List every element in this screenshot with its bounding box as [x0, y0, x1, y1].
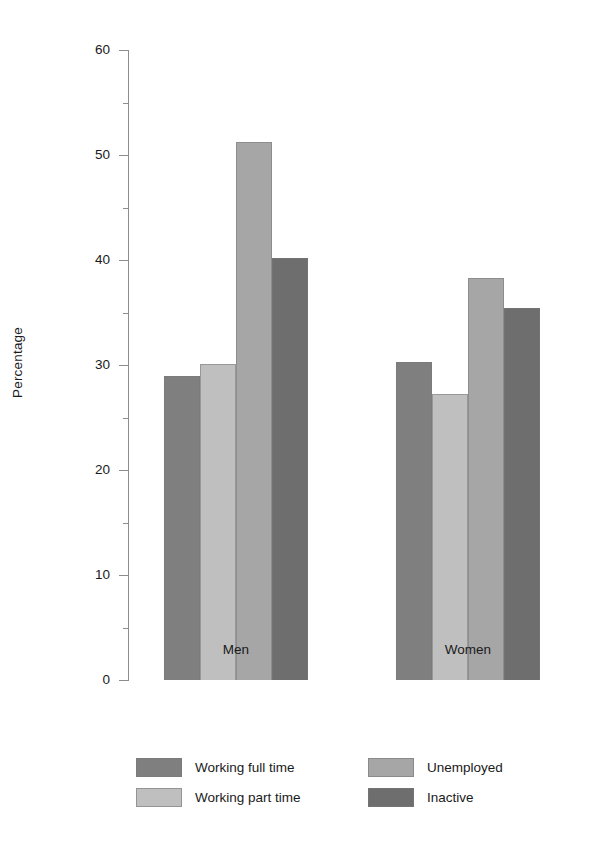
legend-item: Unemployed: [368, 758, 536, 777]
category-label-women: Women: [396, 642, 540, 657]
legend-label: Unemployed: [427, 760, 503, 775]
legend-item: Inactive: [368, 788, 536, 807]
bar: [432, 394, 468, 680]
bars-layer: [128, 50, 568, 680]
bar: [200, 364, 236, 680]
bar: [396, 362, 432, 680]
y-tick-major: 0: [119, 680, 129, 681]
legend-swatch-icon: [368, 788, 414, 807]
legend-swatch-icon: [136, 758, 182, 777]
bar: [236, 142, 272, 680]
legend-item: Working full time: [136, 758, 368, 777]
legend-item: Working part time: [136, 788, 368, 807]
legend-label: Working part time: [195, 790, 301, 805]
bar: [272, 258, 308, 680]
y-tick-label: 20: [95, 461, 110, 479]
y-tick-label: 30: [95, 356, 110, 374]
legend-label: Inactive: [427, 790, 474, 805]
plot-area: 0102030405060: [128, 50, 568, 680]
legend-swatch-icon: [136, 788, 182, 807]
y-tick-label: 10: [95, 566, 110, 584]
bar: [468, 278, 504, 680]
y-axis-title: Percentage: [10, 283, 25, 443]
category-label-men: Men: [164, 642, 308, 657]
bar: [504, 308, 540, 680]
y-tick-label: 60: [95, 41, 110, 59]
bar: [164, 376, 200, 681]
legend-label: Working full time: [195, 760, 295, 775]
y-tick-label: 0: [102, 671, 110, 689]
bar-chart: Percentage 0102030405060 MenWomen Workin…: [0, 0, 601, 841]
y-tick-label: 50: [95, 146, 110, 164]
legend-swatch-icon: [368, 758, 414, 777]
chart-legend: Working full timeUnemployedWorking part …: [136, 752, 536, 812]
y-tick-label: 40: [95, 251, 110, 269]
